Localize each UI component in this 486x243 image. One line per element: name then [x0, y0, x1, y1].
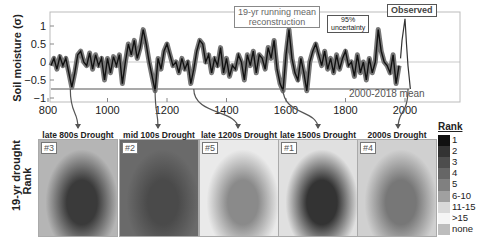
maps-y-label: 19-yr drought Rank	[11, 151, 33, 211]
maps-y-label-line2: Rank	[22, 151, 33, 211]
x-tick-label: 1400	[214, 104, 238, 116]
drought-map: #4	[357, 139, 437, 237]
legend-label: 1	[452, 134, 457, 145]
drought-map: #2	[119, 139, 199, 237]
legend-label: 3	[452, 156, 457, 167]
map-title: late 1200s Drought	[195, 130, 283, 140]
legend-swatch	[438, 213, 450, 224]
x-tick-label: 1200	[155, 104, 179, 116]
x-tick-label: 1800	[333, 104, 357, 116]
x-tick-label: 1000	[95, 104, 119, 116]
y-tick-label: −1	[33, 92, 46, 104]
rank-badge: #1	[281, 142, 297, 154]
rank-badge: #5	[202, 142, 218, 154]
annotation-observed: Observed	[387, 4, 437, 17]
y-tick-label: 0	[40, 56, 46, 68]
legend-swatch	[438, 179, 450, 190]
y-tick-label: −0.5	[24, 74, 46, 86]
annotation-text: uncertainty	[331, 24, 365, 32]
legend-label: 5	[452, 178, 457, 189]
rank-badge: #2	[122, 142, 138, 154]
drought-map: #3	[38, 139, 118, 237]
drought-map: #1	[278, 139, 358, 237]
x-tick-label: 2000	[393, 104, 417, 116]
legend-swatch	[438, 146, 450, 157]
annotation-reconstruction: 19-yr running mean reconstruction	[234, 6, 320, 28]
map-title: late 1500s Drought	[274, 130, 362, 140]
annotation-2000-2018-mean: 2000-2018 mean	[349, 88, 425, 99]
annotation-uncertainty: 95% uncertainty	[327, 15, 369, 33]
annotation-text: 19-yr running mean	[238, 7, 316, 17]
map-title: mid 100s Drought	[115, 130, 203, 140]
legend-title: Rank	[438, 121, 462, 132]
x-tick-label: 800	[39, 104, 57, 116]
legend-label: >15	[452, 212, 468, 223]
legend-swatch	[438, 224, 450, 235]
legend-label: 6-10	[452, 190, 471, 201]
y-tick-label: 0.5	[31, 38, 46, 50]
annotation-text: reconstruction	[238, 17, 316, 27]
legend-swatch	[438, 157, 450, 168]
rank-badge: #3	[41, 142, 57, 154]
legend-swatch	[438, 202, 450, 213]
legend-label: none	[452, 223, 473, 234]
legend-swatch	[438, 191, 450, 202]
y-axis-label: Soil moisture (σ)	[11, 3, 23, 113]
map-title: 2000s Drought	[353, 130, 441, 140]
map-title: late 800s Drought	[34, 130, 122, 140]
y-tick-label: 1	[40, 20, 46, 32]
legend-label: 11-15	[452, 201, 476, 212]
x-tick-label: 1600	[274, 104, 298, 116]
annotation-text: 95%	[331, 16, 365, 24]
rank-badge: #4	[360, 142, 376, 154]
drought-map: #5	[199, 139, 279, 237]
legend-swatch	[438, 168, 450, 179]
legend-label: 2	[452, 145, 457, 156]
observed-line	[401, 19, 411, 89]
legend-label: 4	[452, 167, 457, 178]
